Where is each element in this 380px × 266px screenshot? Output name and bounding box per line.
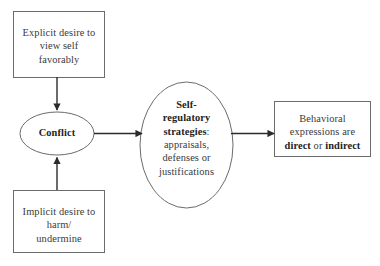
implicit-line-3: undermine xyxy=(36,233,81,244)
explicit-line-1: Explicit desire to xyxy=(23,27,96,38)
explicit-line-3: favorably xyxy=(39,54,80,65)
explicit-line-2: view self xyxy=(40,40,79,51)
implicit-line-2: harm/ xyxy=(47,219,72,230)
strategies-line-2: regulatory xyxy=(163,112,211,123)
behavioral-expressions-label: Behavioral expressions are direct or ind… xyxy=(277,112,368,152)
strategies-line-3: strategies xyxy=(163,126,206,137)
conflict-label: Conflict xyxy=(20,126,94,139)
implicit-line-1: Implicit desire to xyxy=(23,206,96,217)
self-regulatory-strategies-label: Self- regulatory strategies: appraisals,… xyxy=(146,98,227,178)
behavioral-or: or xyxy=(311,140,325,151)
strategies-line-6: justifications xyxy=(159,166,214,177)
strategies-line-1: Self- xyxy=(176,99,197,110)
explicit-desire-label: Explicit desire to view self favorably xyxy=(13,26,105,66)
strategies-line-5: defenses or xyxy=(162,152,210,163)
behavioral-direct: direct xyxy=(285,140,311,151)
implicit-desire-label: Implicit desire to harm/ undermine xyxy=(13,205,105,245)
behavioral-line-1: Behavioral xyxy=(299,113,346,124)
strategies-line-3-colon: : xyxy=(207,126,210,137)
behavioral-line-2: expressions are xyxy=(290,126,355,137)
behavioral-indirect: indirect xyxy=(325,140,360,151)
conflict-line-1: Conflict xyxy=(39,127,76,138)
strategies-line-4: appraisals, xyxy=(164,139,209,150)
